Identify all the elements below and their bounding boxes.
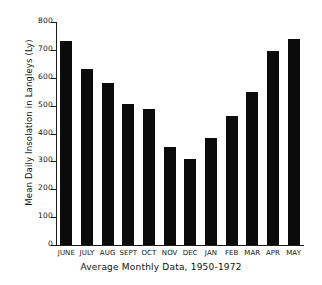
bar (143, 109, 155, 245)
x-axis-tick-label: MAY (277, 249, 311, 257)
bar (164, 147, 176, 245)
y-axis-tick-label: 700 (38, 44, 53, 53)
y-axis-tick-label: 0 (48, 239, 53, 248)
bar (122, 104, 134, 245)
bar (288, 39, 300, 245)
y-axis-line (56, 22, 57, 245)
plot-area: 0100200300400500600700800 JUNEJULYAUGSEP… (56, 22, 304, 245)
y-axis-tick-label: 400 (38, 128, 53, 137)
bar (246, 92, 258, 245)
y-axis-tick-label: 100 (38, 211, 53, 220)
y-axis-tick-label: 200 (38, 183, 53, 192)
bar (102, 83, 114, 245)
x-axis-title: Average Monthly Data, 1950-1972 (0, 262, 322, 272)
bar (267, 51, 279, 245)
y-axis-tick-label: 600 (38, 72, 53, 81)
y-axis-tick-label: 800 (38, 16, 53, 25)
bar-chart-figure: Mean Daily Insolation in Langleys (Ly) 0… (0, 0, 322, 285)
bar (184, 159, 196, 245)
y-axis-tick-label: 300 (38, 155, 53, 164)
bar (226, 116, 238, 245)
x-axis-line (56, 245, 304, 246)
y-axis-tick-label: 500 (38, 100, 53, 109)
bar (60, 41, 72, 245)
bar (81, 69, 93, 245)
bar (205, 138, 217, 245)
y-axis-title: Mean Daily Insolation in Langleys (Ly) (20, 0, 38, 245)
